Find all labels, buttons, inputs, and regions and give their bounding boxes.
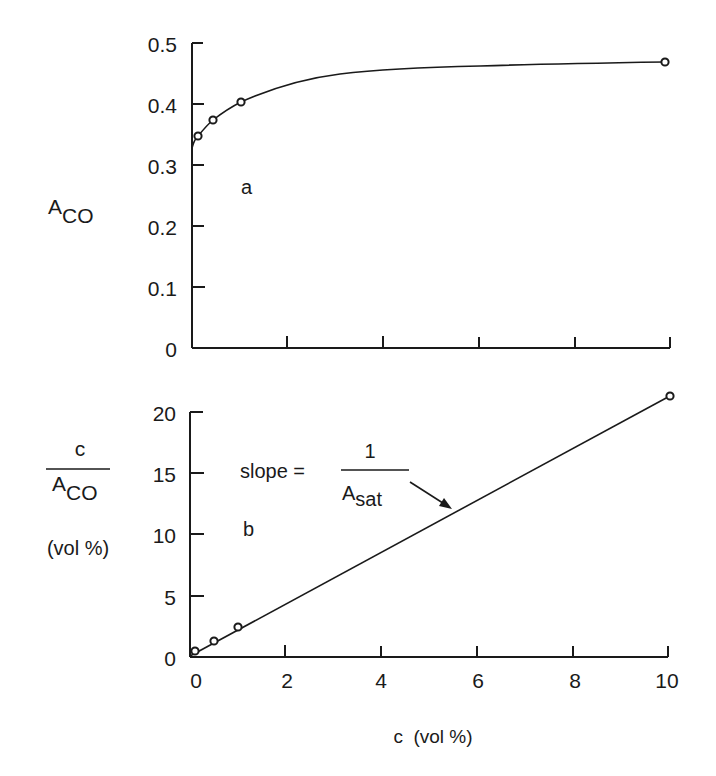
chart-a-x-ticks bbox=[287, 336, 670, 348]
svg-text:Asat: Asat bbox=[342, 482, 382, 510]
svg-text:5: 5 bbox=[164, 586, 176, 609]
svg-text:1: 1 bbox=[364, 440, 375, 462]
svg-text:0.5: 0.5 bbox=[148, 33, 177, 56]
chart-a-point bbox=[194, 132, 201, 139]
svg-text:0.2: 0.2 bbox=[148, 216, 177, 239]
chart-b-point bbox=[234, 623, 241, 630]
svg-text:15: 15 bbox=[153, 463, 176, 486]
chart-b-y-ticks bbox=[190, 412, 204, 596]
svg-text:0.4: 0.4 bbox=[148, 94, 178, 117]
svg-text:c: c bbox=[75, 437, 86, 460]
svg-text:20: 20 bbox=[153, 402, 176, 425]
chart-a-point bbox=[209, 116, 216, 123]
svg-text:8: 8 bbox=[569, 669, 581, 692]
chart-b-point bbox=[666, 392, 673, 399]
arrow-icon bbox=[410, 482, 446, 505]
chart-b-slope-annotation: slope = 1 Asat bbox=[240, 440, 452, 510]
chart-b: c ACO (vol %) 20 15 1 bbox=[46, 392, 679, 747]
chart-a-point bbox=[237, 98, 244, 105]
chart-b-fit-line bbox=[190, 397, 668, 656]
chart-a-fit-curve bbox=[192, 62, 665, 148]
chart-a-y-tick-labels: 0.5 0.4 0.3 0.2 0.1 0 bbox=[148, 33, 178, 361]
chart-a-data-points bbox=[194, 58, 668, 139]
svg-text:0.1: 0.1 bbox=[148, 277, 177, 300]
chart-b-point bbox=[191, 647, 198, 654]
svg-text:4: 4 bbox=[375, 669, 387, 692]
chart-a-y-ticks bbox=[192, 43, 205, 287]
chart-a-panel-letter: a bbox=[241, 176, 253, 198]
chart-b-y-tick-labels: 20 15 10 5 0 bbox=[153, 402, 176, 670]
svg-text:0: 0 bbox=[190, 669, 202, 692]
svg-text:10: 10 bbox=[655, 669, 678, 692]
chart-b-xlabel: c (vol %) bbox=[393, 726, 472, 747]
chart-a-point bbox=[661, 58, 668, 65]
chart-b-x-ticks bbox=[285, 645, 668, 657]
chart-b-ylabel: c ACO (vol %) bbox=[46, 437, 110, 559]
chart-b-point bbox=[210, 637, 217, 644]
chart-a: ACO 0.5 0.4 0.3 0.2 0.1 0 bbox=[48, 33, 670, 361]
arrowhead-icon bbox=[439, 498, 452, 509]
chart-a-ylabel: ACO bbox=[48, 195, 94, 227]
svg-text:(vol %): (vol %) bbox=[47, 537, 109, 559]
svg-text:0: 0 bbox=[165, 338, 177, 361]
svg-text:0: 0 bbox=[164, 647, 176, 670]
svg-text:2: 2 bbox=[281, 669, 293, 692]
figure: ACO 0.5 0.4 0.3 0.2 0.1 0 bbox=[0, 0, 716, 776]
chart-b-panel-letter: b bbox=[243, 518, 254, 540]
svg-text:slope =: slope = bbox=[240, 460, 305, 482]
svg-text:ACO: ACO bbox=[52, 472, 98, 504]
svg-text:6: 6 bbox=[472, 669, 484, 692]
svg-text:10: 10 bbox=[153, 524, 176, 547]
svg-text:0.3: 0.3 bbox=[148, 155, 177, 178]
chart-b-x-tick-labels: 0 2 4 6 8 10 bbox=[190, 669, 679, 692]
